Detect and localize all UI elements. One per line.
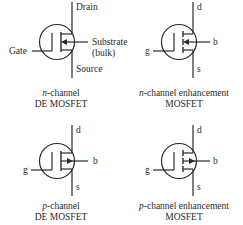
- substrate-label: b: [213, 156, 218, 166]
- drain-label: d: [76, 125, 81, 135]
- substrate-arrow-inward-icon: [183, 39, 189, 45]
- symbol-p-channel-enhancement: d g b s p-channel enhancement MOSFET: [138, 125, 229, 222]
- substrate-label: Substrate: [92, 37, 127, 47]
- drain-label: d: [197, 125, 202, 135]
- source-label: Source: [76, 64, 102, 74]
- substrate-arrow-outward-icon: [67, 158, 73, 164]
- gate-label: g: [23, 165, 28, 175]
- source-label: s: [197, 64, 201, 74]
- source-label: s: [76, 182, 80, 192]
- substrate-label: b: [213, 37, 218, 47]
- drain-label: Drain: [76, 2, 98, 12]
- gate-label: Gate: [9, 46, 27, 56]
- gate-label: g: [145, 165, 150, 175]
- gate-label: g: [145, 46, 150, 56]
- drain-label: d: [197, 2, 202, 12]
- symbol-p-channel-de: d g b s p-channel DE MOSFET: [23, 125, 98, 222]
- channel-rest: -channel enhancement: [144, 88, 230, 98]
- caption-line-2: MOSFET: [165, 99, 203, 109]
- substrate-arrow-outward-icon: [189, 158, 195, 164]
- symbol-n-channel-enhancement: d g b s n-channel enhancement MOSFET: [139, 2, 229, 109]
- substrate-bulk-label: (bulk): [92, 48, 115, 59]
- caption-line-1: n-channel: [42, 88, 80, 98]
- substrate-label: b: [93, 156, 98, 166]
- caption-line-2: DE MOSFET: [35, 99, 88, 109]
- symbol-n-channel-de: Drain Gate Substrate (bulk) Source n-cha…: [9, 2, 127, 109]
- caption-line-2: DE MOSFET: [35, 212, 88, 222]
- substrate-arrow-inward-icon: [61, 39, 67, 45]
- caption-line-1: n-channel enhancement: [139, 88, 229, 98]
- caption-line-2: MOSFET: [165, 212, 203, 222]
- channel-rest: -channel enhancement: [144, 201, 230, 211]
- caption-line-1: p-channel enhancement: [138, 201, 229, 211]
- channel-rest: -channel: [47, 88, 80, 98]
- caption-line-1: p-channel: [41, 201, 80, 211]
- channel-rest: -channel: [47, 201, 80, 211]
- source-label: s: [197, 182, 201, 192]
- mosfet-symbols-diagram: Drain Gate Substrate (bulk) Source n-cha…: [0, 0, 243, 225]
